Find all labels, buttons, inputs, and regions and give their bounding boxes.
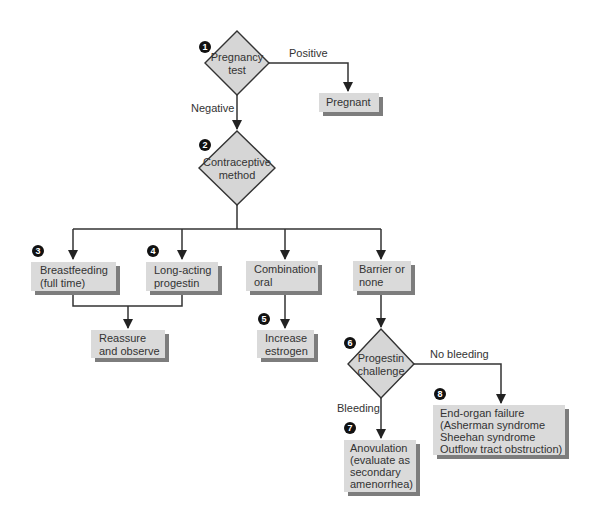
box-text: Barrier or [359, 263, 405, 275]
box-text: (full time) [40, 277, 85, 289]
box-text: and observe [99, 345, 160, 357]
box-text: (evaluate as [350, 454, 410, 466]
step-badge-number: 3 [35, 246, 40, 256]
box-text: amenorrhea) [350, 478, 413, 490]
box-text: Pregnant [326, 96, 371, 108]
box-text: secondary [350, 466, 401, 478]
decision-text: Pregnancy [211, 51, 264, 63]
label-negative: Negative [191, 102, 234, 114]
box-text: Breastfeeding [40, 264, 108, 276]
step-badge-number: 7 [347, 423, 352, 433]
box-text: Reassure [99, 332, 146, 344]
box-text: none [359, 276, 383, 288]
edge-positive [269, 63, 348, 91]
decision-text: method [219, 169, 256, 181]
decision-text: Progestin [358, 352, 404, 364]
box-breastfeeding: Breastfeeding (full time) 3 [31, 245, 120, 295]
label-positive: Positive [289, 47, 328, 59]
box-pregnant: Pregnant [319, 93, 383, 116]
decision-contraceptive-method: Contraceptive method 2 [199, 131, 275, 205]
label-no-bleeding: No bleeding [430, 348, 489, 360]
box-reassure-and-observe: Reassure and observe [91, 330, 169, 362]
flowchart: Positive Negative No bleeding Bleeding P… [0, 0, 600, 517]
step-badge-number: 6 [347, 338, 352, 348]
edge-no-bleeding [414, 364, 501, 403]
decision-pregnancy-test: Pregnancy test 1 [199, 31, 269, 95]
box-text: (Asherman syndrome [440, 419, 545, 431]
box-long-acting-progestin: Long-acting progestin 4 [146, 245, 222, 295]
step-badge-number: 2 [202, 140, 207, 150]
box-increase-estrogen: Increase estrogen 5 [257, 313, 318, 362]
step-badge-number: 1 [202, 42, 207, 52]
decision-text: Contraceptive [203, 156, 271, 168]
label-bleeding: Bleeding [337, 402, 380, 414]
box-text: End-organ failure [440, 407, 524, 419]
step-badge-number: 8 [437, 389, 442, 399]
step-badge-number: 4 [150, 246, 155, 256]
box-text: Outflow tract obstruction) [440, 443, 562, 455]
step-badge-number: 5 [261, 314, 266, 324]
box-text: oral [254, 276, 272, 288]
box-text: estrogen [265, 345, 308, 357]
box-anovulation: Anovulation (evaluate as secondary ameno… [344, 422, 420, 496]
decision-text: test [228, 64, 246, 76]
decision-text: challenge [357, 365, 404, 377]
connectors [73, 63, 501, 438]
decision-progestin-challenge: Progestin challenge 6 [344, 329, 414, 398]
box-text: Sheehan syndrome [440, 431, 535, 443]
box-text: Long-acting [154, 264, 212, 276]
box-text: progestin [154, 277, 199, 289]
box-text: Increase [265, 332, 307, 344]
box-combination-oral: Combination oral [246, 261, 322, 295]
box-text: Combination [254, 263, 316, 275]
box-barrier-or-none: Barrier or none [353, 261, 415, 295]
box-text: Anovulation [350, 442, 408, 454]
